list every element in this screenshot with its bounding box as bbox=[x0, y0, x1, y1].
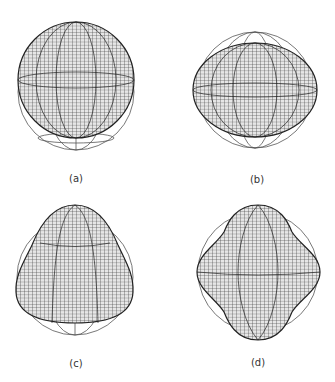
panel-a-label: (a) bbox=[69, 173, 83, 184]
panel-b-label: (b) bbox=[250, 174, 264, 185]
panel-c-label: (c) bbox=[69, 358, 82, 369]
panel-d-label: (d) bbox=[251, 357, 265, 368]
panel-c-diagram bbox=[16, 205, 133, 335]
panel-d-diagram bbox=[197, 205, 320, 340]
deformed-nucleus-d bbox=[197, 205, 320, 340]
figure-canvas bbox=[0, 0, 335, 382]
deformed-nucleus-c bbox=[16, 205, 133, 323]
deformed-nucleus-a bbox=[18, 22, 134, 138]
deformed-nucleus-b bbox=[193, 43, 317, 137]
panel-a-diagram bbox=[18, 22, 134, 150]
panel-b-diagram bbox=[193, 32, 317, 148]
